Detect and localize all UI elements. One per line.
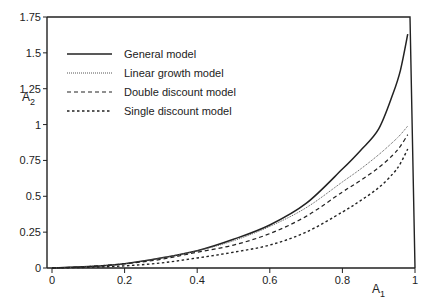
x-axis-label: A1 [372,282,385,299]
series-line-linear-growth-model [52,126,408,268]
y-tick-label: 0.25 [20,226,41,238]
y-tick-label: 0.5 [26,190,41,202]
legend-label: Double discount model [124,86,236,98]
x-axis-ticks: 00.20.40.60.81 [49,268,418,286]
series-line-general-model [52,34,408,268]
line-chart: 00.250.50.7511.251.51.75 00.20.40.60.81 … [0,0,422,303]
x-tick-label: 1 [412,274,418,286]
x-tick-label: 0.4 [190,274,205,286]
legend: General modelLinear growth modelDouble d… [67,48,236,117]
data-series [52,34,408,268]
y-tick-label: 0 [35,262,41,274]
y-tick-label: 1.5 [26,47,41,59]
y-tick-label: 0.75 [20,154,41,166]
x-tick-label: 0.6 [262,274,277,286]
legend-label: General model [124,48,196,60]
legend-label: Linear growth model [124,67,224,79]
series-line-single-discount-model [52,149,408,268]
x-tick-label: 0 [49,274,55,286]
x-tick-label: 0.2 [117,274,132,286]
legend-label: Single discount model [124,105,232,117]
y-tick-label: 1.75 [20,11,41,23]
x-tick-label: 0.8 [335,274,350,286]
series-line-double-discount-model [52,135,408,268]
y-tick-label: 1 [35,119,41,131]
y-axis-ticks: 00.250.50.7511.251.51.75 [20,11,47,274]
